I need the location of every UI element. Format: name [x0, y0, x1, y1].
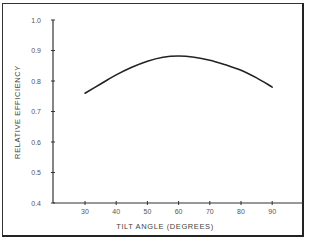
x-tick-label: 40 [112, 208, 120, 215]
x-tick-label: 70 [206, 208, 214, 215]
y-tick-label: 0.4 [31, 200, 41, 207]
efficiency-curve [85, 56, 272, 93]
x-tick-label: 80 [237, 208, 245, 215]
y-tick-label: 0.6 [31, 139, 41, 146]
y-ticks: 0.40.50.60.70.80.91.0 [31, 17, 55, 207]
x-tick-label: 30 [81, 208, 89, 215]
x-tick-label: 90 [268, 208, 276, 215]
x-axis-title: TILT ANGLE (DEGREES) [116, 222, 214, 231]
y-tick-label: 0.7 [31, 108, 41, 115]
y-tick-label: 0.9 [31, 47, 41, 54]
x-tick-label: 60 [175, 208, 183, 215]
y-tick-label: 0.8 [31, 78, 41, 85]
y-tick-label: 1.0 [31, 17, 41, 24]
chart-canvas: 0.40.50.60.70.80.91.0 30405060708090 TIL… [0, 0, 309, 240]
x-tick-label: 50 [144, 208, 152, 215]
y-tick-label: 0.5 [31, 169, 41, 176]
y-axis-title: RELATIVE EFFICIENCY [13, 65, 22, 159]
